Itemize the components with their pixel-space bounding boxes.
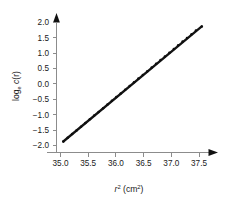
y-axis-title: loge c(r) [11, 71, 22, 101]
y-tick-marks [53, 22, 57, 145]
y-tick-label: −0.5 [33, 95, 50, 104]
x-tick-marks [61, 153, 200, 157]
x-tick-label: 37.0 [163, 159, 179, 168]
y-tick-label: −1.5 [33, 126, 50, 135]
x-tick-label: 36.5 [136, 159, 152, 168]
x-tick-labels: 35.0 35.5 36.0 36.5 37.0 37.5 [53, 159, 208, 168]
y-tick-label: −1.0 [33, 111, 50, 120]
y-tick-label: 1.0 [38, 49, 50, 58]
data-trend-line [63, 26, 202, 141]
y-tick-labels: −2.0 −1.5 −1.0 −0.5 0.0 0.5 1.0 1.5 2.0 [33, 18, 50, 150]
data-series-group [62, 25, 203, 143]
x-axis-arrow-icon [209, 149, 219, 156]
y-tick-label: 0.5 [38, 64, 50, 73]
y-axis-arrow-icon [53, 13, 60, 23]
y-tick-label: 2.0 [38, 18, 50, 27]
x-tick-label: 36.0 [108, 159, 124, 168]
x-axis-title-unit-open: (cm [121, 184, 138, 194]
y-axis-title-base: log [11, 89, 21, 101]
chart-canvas: −2.0 −1.5 −1.0 −0.5 0.0 0.5 1.0 1.5 2.0 … [0, 0, 230, 201]
y-tick-label: 0.0 [38, 80, 50, 89]
chart-figure: −2.0 −1.5 −1.0 −0.5 0.0 0.5 1.0 1.5 2.0 … [0, 0, 230, 201]
y-axis-title-argument: (r) [11, 71, 21, 80]
y-tick-label: −2.0 [33, 141, 50, 150]
x-tick-label: 35.5 [80, 159, 96, 168]
x-tick-label: 35.0 [53, 159, 69, 168]
x-tick-label: 37.5 [191, 159, 207, 168]
x-axis-title: r2 (cm2) [115, 184, 144, 194]
x-axis-title-unit-close: ) [141, 184, 144, 194]
y-tick-label: 1.5 [38, 34, 50, 43]
